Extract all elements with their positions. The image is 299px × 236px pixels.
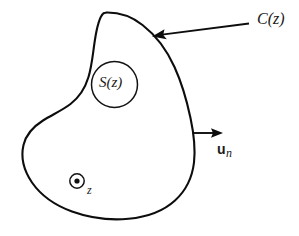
diagram-canvas [0,0,299,236]
outer-contour-path [22,13,194,220]
figure-root: C(z) S(z) un z [0,0,299,236]
axis-label: z [87,184,92,196]
surface-label: S(z) [99,75,122,90]
axis-marker-dot-icon [74,178,79,183]
contour-leader-shaft [162,24,249,35]
normal-vector-label: un [217,142,232,159]
normal-vector-subscript: n [226,146,232,160]
normal-vector-symbol: u [217,141,226,157]
contour-label: C(z) [257,11,285,27]
